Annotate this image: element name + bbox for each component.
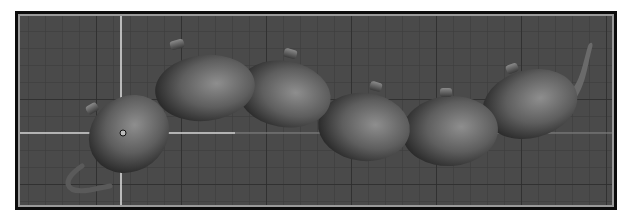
- pivot-point-icon[interactable]: [120, 130, 126, 136]
- viewport-canvas[interactable]: [20, 16, 612, 205]
- lid-knob-icon: [440, 88, 452, 97]
- viewport-frame: [15, 11, 617, 210]
- 3d-viewport[interactable]: [20, 16, 612, 205]
